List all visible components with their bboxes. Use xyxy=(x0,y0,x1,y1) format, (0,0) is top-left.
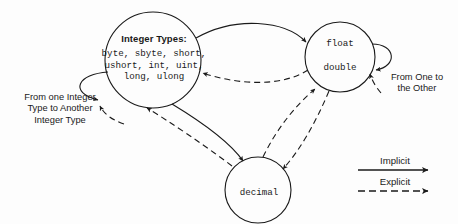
edge-integer-to-float-implicit xyxy=(196,23,306,42)
edge-float-to-integer-explicit xyxy=(203,70,308,82)
node-integer-types xyxy=(105,12,201,108)
edge-integer-self-implicit xyxy=(80,72,108,100)
edge-float-to-decimal-explicit xyxy=(283,91,329,169)
edge-float-self-explicit xyxy=(370,74,381,93)
diagram-canvas: Integer Types: byte, sbyte, short, ushor… xyxy=(0,0,458,224)
node-float-double xyxy=(305,22,375,92)
edge-integer-self-explicit xyxy=(100,106,124,124)
node-decimal xyxy=(225,157,291,223)
edge-decimal-to-float-explicit xyxy=(263,89,315,157)
conversion-diagram-svg xyxy=(0,0,458,224)
edge-integer-to-decimal-implicit xyxy=(172,104,243,161)
